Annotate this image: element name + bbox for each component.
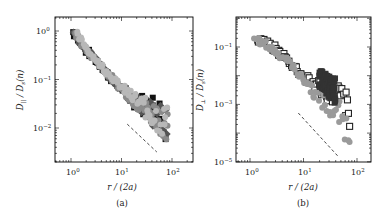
x-tick-label: 100 [66,167,80,178]
data-point [311,95,317,101]
data-point [330,85,336,91]
data-point [344,97,350,103]
data-point [347,123,353,129]
data-point [99,63,105,69]
data-point [343,89,349,95]
data-point [132,93,138,99]
data-point [164,105,170,111]
panel-b-reference-slope-line [298,113,338,157]
data-point [153,108,159,114]
panel-b: 100 101 102 10−1 10−3 10−5 r / (2a) D⊥ /… [195,17,371,208]
data-point [309,83,315,89]
panel-b-x-axis-label: r / (2a) [288,182,317,192]
data-point [159,131,165,137]
data-point [316,98,322,104]
panel-b-data-points [251,35,353,145]
panel-a-data-points [70,28,171,168]
panel-b-x-tick-labels: 100 101 102 [245,167,365,178]
data-point [343,115,349,121]
x-tick-label: 101 [298,167,312,178]
data-point [142,95,148,101]
data-point [298,72,304,78]
x-tick-label: 101 [115,167,129,178]
y-tick-label: 10−1 [214,42,232,53]
y-tick-label: 10−5 [214,157,233,168]
data-point [347,139,353,145]
data-point [263,38,269,44]
panel-a-x-axis-label: r / (2a) [107,182,136,192]
y-tick-label: 10−3 [214,99,233,110]
data-point [162,114,168,120]
panel-a-y-axis-label: D|| / Ds(n) [15,70,27,112]
panel-a: 100 101 102 100 10−1 10−2 r / (2a) D|| /… [15,17,193,208]
panel-b-y-axis-label: D⊥ / Ds(n) [195,69,206,112]
panel-b-y-tick-labels: 10−1 10−3 10−5 [214,42,233,168]
data-point [332,75,338,81]
panel-a-caption: (a) [116,198,128,208]
x-tick-label: 102 [166,167,180,178]
data-point [163,136,169,142]
data-point [322,102,328,108]
figure: 100 101 102 100 10−1 10−2 r / (2a) D|| /… [0,0,388,221]
panel-a-x-tick-labels: 100 101 102 [66,167,180,178]
y-tick-label: 100 [36,26,50,37]
data-point [152,117,158,123]
data-point [161,122,167,128]
data-point [332,98,338,104]
y-tick-label: 10−1 [33,75,51,86]
panel-b-caption: (b) [297,198,309,208]
y-tick-label: 10−2 [33,123,51,134]
panel-a-y-tick-labels: 100 10−1 10−2 [33,26,51,134]
x-tick-label: 102 [351,167,365,178]
x-tick-label: 100 [245,167,259,178]
